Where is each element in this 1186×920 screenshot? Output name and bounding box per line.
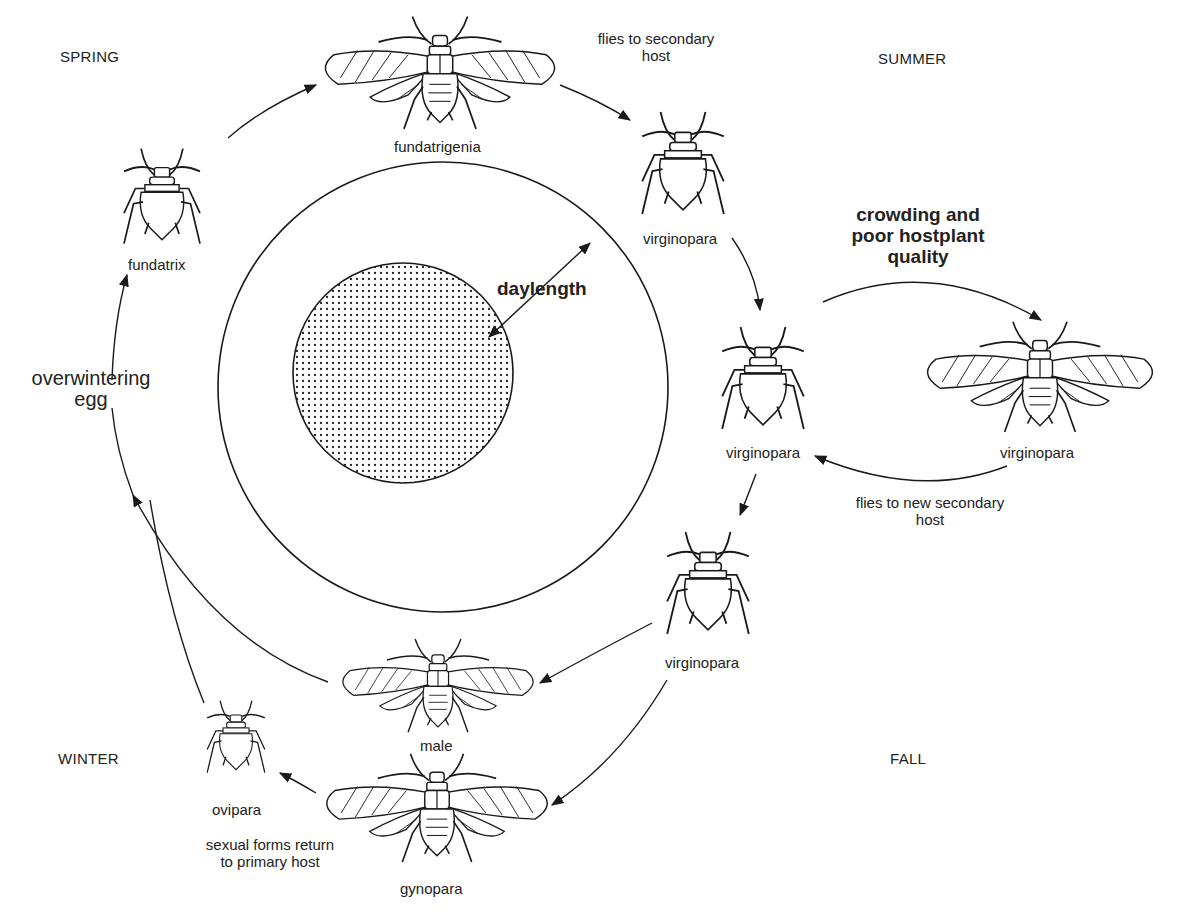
arrow-gynopara-to-ovipara — [280, 773, 316, 793]
morph-label-virginopara-3: virginopara — [665, 654, 739, 671]
morph-label-fundatrix: fundatrix — [128, 256, 186, 273]
arrow-winged-back-to-virginopara — [815, 456, 1007, 481]
morph-label-virginopara-1: virginopara — [643, 230, 717, 247]
season-label-spring: SPRING — [60, 48, 119, 65]
arrow-virginopara-down — [732, 238, 760, 310]
annotation-sexual-forms-return: sexual forms return to primary host — [190, 836, 350, 870]
male-aphid-icon — [343, 639, 533, 732]
arrow-fundatrigenia-to-virginopara — [560, 85, 630, 120]
virginopara-winged-aphid-icon — [928, 322, 1153, 432]
arrow-virginopara-to-fall — [740, 474, 756, 515]
ovipara-aphid-icon — [207, 701, 265, 773]
morph-label-male: male — [420, 737, 453, 754]
daylength-inner-dotted-circle — [293, 263, 513, 483]
annotation-overwintering-egg: overwintering egg — [26, 368, 156, 410]
gynopara-aphid-icon — [327, 754, 548, 862]
morph-label-gynopara: gynopara — [400, 880, 463, 897]
arrow-virginopara-to-gynopara — [552, 680, 667, 805]
annotation-flies-to-new-secondary-host: flies to new secondary host — [840, 494, 1020, 528]
arrow-male-to-egg — [133, 495, 328, 682]
virginopara-1-aphid-icon — [642, 112, 724, 214]
annotation-crowding-poor-hostplant: crowding and poor hostplant quality — [848, 204, 988, 267]
fundatrigenia-aphid-icon — [325, 17, 554, 129]
season-label-fall: FALL — [890, 750, 926, 767]
morph-label-virginopara-2: virginopara — [726, 444, 800, 461]
morph-label-fundatrigenia: fundatrigenia — [394, 138, 481, 155]
morph-label-virginopara-winged: virginopara — [1000, 444, 1074, 461]
arrow-virginopara-to-male — [540, 623, 652, 683]
arrow-egg-lower-arc — [112, 408, 133, 495]
annotation-flies-to-secondary-host: flies to secondary host — [586, 30, 726, 64]
virginopara-3-aphid-icon — [667, 532, 749, 634]
season-label-winter: WINTER — [58, 750, 119, 767]
season-label-summer: SUMMER — [878, 50, 946, 67]
morph-label-ovipara: ovipara — [212, 801, 261, 818]
arrow-fundatrix-to-fundatrigenia — [228, 85, 316, 138]
daylength-label: daylength — [497, 278, 587, 299]
arrow-egg-to-fundatrix — [112, 275, 127, 380]
virginopara-2-aphid-icon — [722, 327, 804, 429]
arrow-ovipara-to-egg — [150, 500, 204, 703]
arrow-crowding-to-winged — [823, 282, 1041, 320]
fundatrix-aphid-icon — [124, 149, 200, 244]
